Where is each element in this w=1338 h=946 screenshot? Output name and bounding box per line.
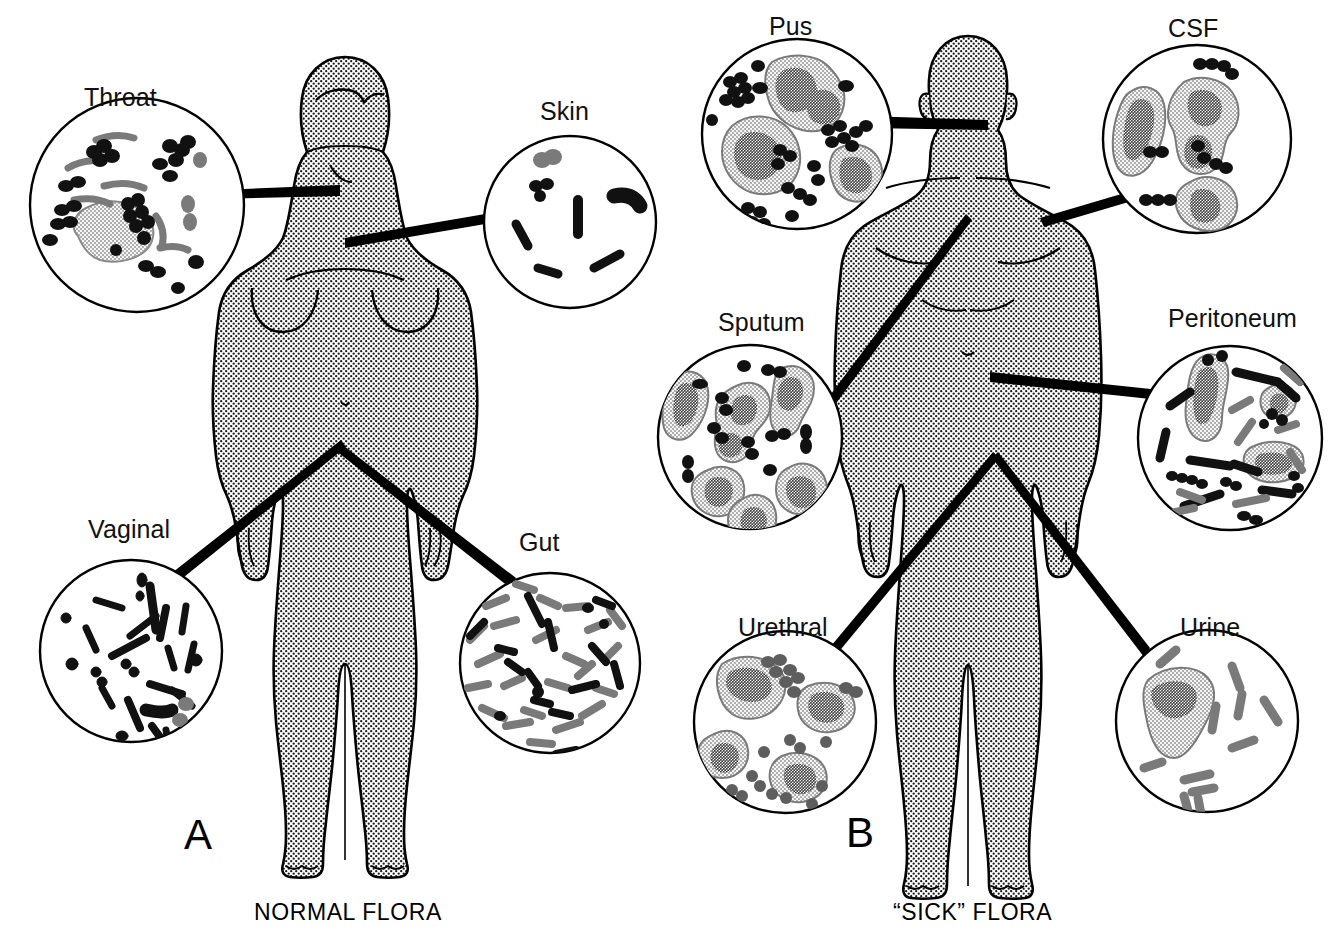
panel-caption-b: “SICK” FLORA (893, 901, 1052, 924)
specimen-circle-peritoneum (1138, 346, 1322, 530)
specimen-label-gut: Gut (519, 530, 560, 555)
specimen-circle-pus (702, 39, 892, 230)
specimen-label-urine: Urine (1180, 615, 1240, 640)
specimen-label-vaginal: Vaginal (88, 517, 170, 542)
panel-letter-a: A (184, 814, 212, 856)
panel-letter-b: B (846, 812, 874, 854)
specimen-circle-csf (1103, 45, 1291, 233)
specimen-circle-gut (460, 573, 640, 754)
specimen-label-sputum: Sputum (718, 310, 805, 335)
specimen-circle-vaginal (40, 560, 222, 754)
specimen-circle-throat (30, 98, 244, 312)
specimen-label-throat: Throat (84, 85, 157, 110)
specimen-label-peritoneum: Peritoneum (1168, 306, 1297, 331)
specimen-label-csf: CSF (1168, 16, 1218, 41)
specimen-label-pus: Pus (769, 14, 812, 39)
panel-caption-a: NORMAL FLORA (254, 901, 442, 924)
figure-svg (0, 0, 1338, 946)
specimen-circle-urethral (694, 631, 876, 813)
leader-line-csf (1040, 192, 1132, 227)
specimen-label-urethral: Urethral (738, 615, 828, 640)
figure-canvas: Throat Skin Vaginal Gut Pus CSF Sputum P… (0, 0, 1338, 946)
specimen-label-skin: Skin (540, 99, 589, 124)
specimen-circle-skin (484, 136, 656, 308)
specimen-circle-sputum (658, 345, 842, 555)
specimen-circle-urine (1116, 630, 1298, 820)
female-body-figure (213, 57, 478, 878)
